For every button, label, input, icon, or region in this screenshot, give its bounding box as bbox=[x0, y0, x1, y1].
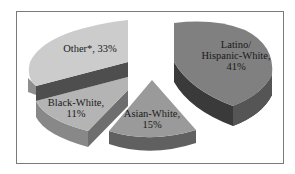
label-black: Black-White, 11% bbox=[45, 97, 107, 119]
label-asian-line1: Asian-White, bbox=[120, 108, 184, 119]
label-other-line1: Other*, 33% bbox=[50, 43, 130, 54]
label-latino-line2: Hispanic-White, bbox=[201, 50, 271, 61]
label-other: Other*, 33% bbox=[50, 43, 130, 54]
label-latino-line3: 41% bbox=[201, 61, 271, 72]
label-asian-line2: 15% bbox=[120, 119, 184, 130]
label-latino-line1: Latino/ bbox=[201, 39, 271, 50]
label-asian: Asian-White, 15% bbox=[120, 108, 184, 130]
label-black-line2: 11% bbox=[45, 108, 107, 119]
label-latino: Latino/ Hispanic-White, 41% bbox=[201, 39, 271, 72]
label-black-line1: Black-White, bbox=[45, 97, 107, 108]
pie-chart bbox=[0, 0, 295, 174]
slice-latino-hispanic-white bbox=[174, 22, 272, 126]
